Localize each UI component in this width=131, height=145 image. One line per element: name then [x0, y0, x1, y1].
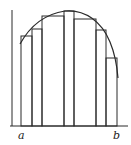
riemann-sum-diagram: a b [0, 0, 131, 145]
label-a: a [18, 129, 25, 142]
riemann-rectangle [96, 30, 106, 126]
riemann-rectangle [42, 16, 64, 126]
label-b: b [113, 129, 120, 142]
function-curve [20, 11, 118, 78]
riemann-rectangle [64, 11, 74, 126]
riemann-rectangle [74, 19, 96, 126]
riemann-rectangle [21, 36, 32, 126]
riemann-rectangle [32, 29, 42, 126]
diagram-canvas: a b [0, 0, 131, 145]
riemann-rectangle [106, 58, 117, 126]
